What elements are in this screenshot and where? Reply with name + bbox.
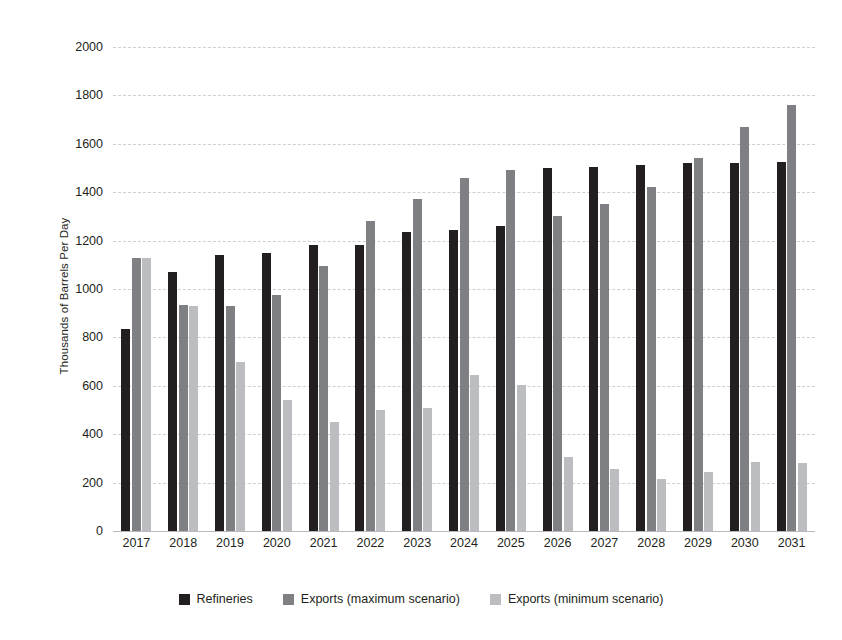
bar <box>283 400 292 531</box>
bar <box>413 199 422 531</box>
bar-group <box>262 47 292 531</box>
bar <box>657 479 666 531</box>
gridline <box>113 531 815 532</box>
legend-swatch-icon <box>179 594 190 605</box>
bar <box>751 462 760 531</box>
legend-label: Refineries <box>197 592 253 606</box>
y-axis-tick-labels: 0200400600800100012001400160018002000 <box>39 47 103 531</box>
bar <box>262 253 271 531</box>
bar-group <box>636 47 666 531</box>
bar <box>236 362 245 531</box>
bar-group <box>543 47 573 531</box>
bar-group <box>121 47 151 531</box>
legend-item[interactable]: Exports (minimum scenario) <box>490 592 664 606</box>
x-axis-tick-labels: 2017201820192020202120222023202420252026… <box>113 536 815 558</box>
bar <box>600 204 609 531</box>
legend-item[interactable]: Refineries <box>179 592 253 606</box>
bars-layer <box>113 47 815 531</box>
bar <box>189 306 198 531</box>
bar <box>704 472 713 531</box>
bar <box>683 163 692 531</box>
bar <box>309 245 318 531</box>
bar <box>460 178 469 531</box>
bar <box>787 105 796 531</box>
bar <box>740 127 749 531</box>
bar-group <box>730 47 760 531</box>
bar-group <box>589 47 619 531</box>
bar <box>589 167 598 531</box>
bar <box>543 168 552 531</box>
y-axis-tick-label: 1800 <box>43 88 103 102</box>
bar-group <box>402 47 432 531</box>
x-axis-tick-label: 2031 <box>765 536 819 550</box>
bar <box>330 422 339 531</box>
bar <box>610 469 619 531</box>
bar <box>694 158 703 531</box>
bar-group <box>496 47 526 531</box>
bar <box>449 230 458 531</box>
y-axis-tick-label: 2000 <box>43 40 103 54</box>
y-axis-tick-label: 1000 <box>43 282 103 296</box>
bar <box>319 266 328 531</box>
y-axis-tick-label: 1400 <box>43 185 103 199</box>
legend-swatch-icon <box>490 594 501 605</box>
chart-legend: RefineriesExports (maximum scenario)Expo… <box>0 592 842 606</box>
bar <box>777 162 786 531</box>
bar-group <box>449 47 479 531</box>
bar <box>517 385 526 531</box>
bar-chart: Thousands of Barrels Per Day 02004006008… <box>0 0 842 640</box>
bar <box>470 375 479 531</box>
bar <box>636 165 645 531</box>
bar-group <box>168 47 198 531</box>
bar <box>366 221 375 531</box>
bar <box>423 408 432 531</box>
bar <box>506 170 515 531</box>
y-axis-tick-label: 800 <box>43 330 103 344</box>
bar <box>647 187 656 531</box>
bar <box>132 258 141 531</box>
legend-swatch-icon <box>283 594 294 605</box>
bar-group <box>683 47 713 531</box>
bar <box>553 216 562 531</box>
bar <box>121 329 130 531</box>
bar <box>355 245 364 531</box>
bar <box>730 163 739 531</box>
bar <box>798 463 807 531</box>
y-axis-tick-label: 200 <box>43 476 103 490</box>
y-axis-tick-label: 1200 <box>43 234 103 248</box>
legend-label: Exports (minimum scenario) <box>508 592 664 606</box>
bar <box>376 410 385 531</box>
bar-group <box>309 47 339 531</box>
legend-label: Exports (maximum scenario) <box>301 592 460 606</box>
y-axis-tick-label: 1600 <box>43 137 103 151</box>
y-axis-tick-label: 0 <box>43 524 103 538</box>
bar <box>496 226 505 531</box>
bar <box>272 295 281 531</box>
bar <box>226 306 235 531</box>
bar <box>564 457 573 531</box>
y-axis-tick-label: 400 <box>43 427 103 441</box>
bar-group <box>355 47 385 531</box>
bar <box>168 272 177 531</box>
bar <box>402 232 411 531</box>
bar-group <box>215 47 245 531</box>
bar <box>215 255 224 531</box>
legend-item[interactable]: Exports (maximum scenario) <box>283 592 460 606</box>
bar <box>142 258 151 531</box>
bar <box>179 305 188 531</box>
bar-group <box>777 47 807 531</box>
y-axis-tick-label: 600 <box>43 379 103 393</box>
